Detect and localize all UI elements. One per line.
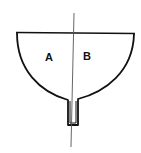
label-a: A	[45, 51, 53, 63]
spout-inner	[70, 101, 76, 123]
label-b: B	[83, 50, 91, 62]
funnel-diagram: A B	[0, 0, 141, 153]
diagram-canvas: A B	[0, 0, 141, 153]
rim-line	[16, 33, 135, 34]
